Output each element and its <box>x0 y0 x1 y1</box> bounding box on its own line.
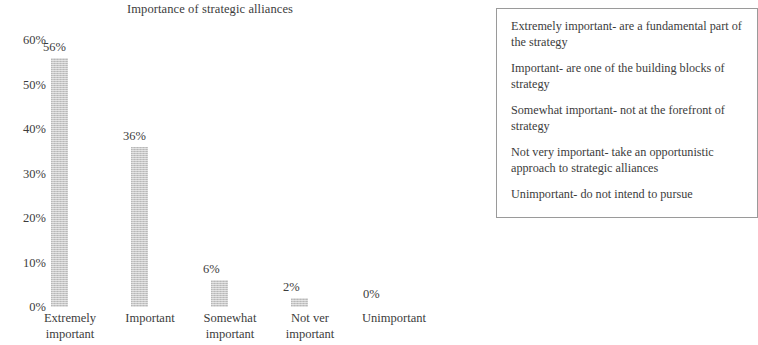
bar-value-label: 2% <box>283 280 343 295</box>
legend-entry: Somewhat important- not at the forefront… <box>511 103 758 134</box>
bar-somewhat-important <box>211 280 228 307</box>
bar-group: 2% <box>271 37 349 307</box>
x-axis-category-label: Important <box>106 311 194 327</box>
bar-group: 56% <box>31 37 109 307</box>
x-axis-label-line: Important <box>106 311 194 327</box>
x-axis-label-line: important <box>26 327 114 343</box>
x-axis-label-line: Not ver <box>266 311 354 327</box>
x-axis-label-line: Unimportant <box>350 311 438 327</box>
x-axis-label-line: important <box>186 327 274 343</box>
legend-entry: Unimportant- do not intend to pursue <box>511 187 758 203</box>
chart-panel: Importance of strategic alliances 60% 50… <box>0 0 480 345</box>
legend-entry: Not very important- take an opportunisti… <box>511 145 758 176</box>
legend-entry: Extremely important- are a fundamental p… <box>511 19 758 50</box>
x-axis-label-line: Somewhat <box>186 311 274 327</box>
legend-entry: Important- are one of the building block… <box>511 61 758 92</box>
x-axis-category-label: Not ver important <box>266 311 354 342</box>
bar-group: 0% <box>351 37 429 307</box>
bar-value-label: 56% <box>43 40 103 55</box>
x-axis-label-line: Extremely <box>26 311 114 327</box>
bar-not-very-important <box>291 298 308 307</box>
bar-extremely-important <box>51 58 68 307</box>
legend-box: Extremely important- are a fundamental p… <box>496 8 758 218</box>
bar-chart-plot-area: 60% 50% 40% 30% 20% 10% 0% 56% 36% 6% <box>0 0 480 345</box>
bar-value-label: 6% <box>203 262 263 277</box>
x-axis-category-label: Unimportant <box>350 311 438 327</box>
x-axis-label-line: important <box>266 327 354 343</box>
bar-group: 36% <box>111 37 189 307</box>
bar-value-label: 36% <box>123 129 183 144</box>
bar-value-label: 0% <box>363 287 423 302</box>
x-axis-category-label: Extremely important <box>26 311 114 342</box>
bar-important <box>131 147 148 307</box>
bar-group: 6% <box>191 37 269 307</box>
x-axis-category-label: Somewhat important <box>186 311 274 342</box>
